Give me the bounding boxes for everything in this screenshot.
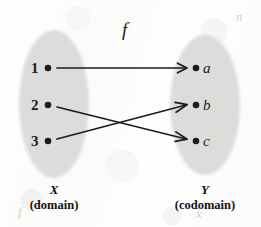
codomain-element-label-a: a [203, 61, 211, 76]
codomain-element-label-c: c [203, 134, 210, 149]
domain-element-dot-2 [45, 102, 52, 109]
domain-element-label-3: 3 [31, 134, 39, 149]
codomain-set-name: Y [152, 183, 258, 198]
codomain-element-label-b: b [203, 98, 211, 113]
domain-element-dot-3 [45, 138, 52, 145]
domain-element-label-1: 1 [31, 61, 39, 76]
domain-set-role: (domain) [4, 198, 104, 212]
domain-element-label-2: 2 [31, 98, 39, 113]
domain-caption: X (domain) [4, 183, 104, 212]
domain-element-dot-1 [45, 65, 52, 72]
codomain-element-dot-a [193, 65, 200, 72]
domain-set-ellipse [19, 30, 89, 178]
function-diagram-figure: f x n [0, 0, 261, 227]
codomain-element-dot-c [193, 138, 200, 145]
function-name-label: f [122, 19, 127, 41]
domain-set-name: X [4, 183, 104, 198]
codomain-caption: Y (codomain) [152, 183, 258, 212]
codomain-set-role: (codomain) [152, 198, 258, 212]
codomain-element-dot-b [193, 102, 200, 109]
